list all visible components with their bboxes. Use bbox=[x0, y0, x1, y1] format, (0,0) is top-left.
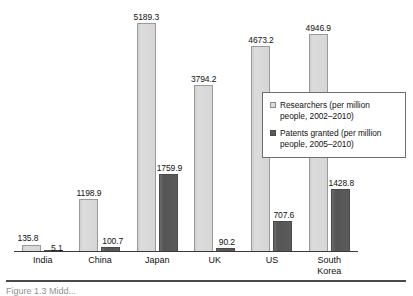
legend-item-researchers[interactable]: Researchers (per million people, 2002–20… bbox=[270, 100, 399, 121]
x-tick-line1: UK bbox=[186, 255, 243, 266]
figure-container: 135.8 5.1 1198.9 100.7 5189.3 bbox=[0, 0, 413, 296]
legend-item-patents[interactable]: Patents granted (per million people, 200… bbox=[270, 128, 399, 149]
bar-patents-us[interactable]: 707.6 bbox=[273, 221, 292, 252]
chart-legend: Researchers (per million people, 2002–20… bbox=[262, 92, 406, 158]
figure-caption-clipped: Figure 1.3 Midd... bbox=[6, 287, 406, 296]
bar-group-japan: 5189.3 1759.9 bbox=[129, 0, 186, 252]
value-label: 1428.8 bbox=[329, 179, 354, 188]
legend-label-researchers: Researchers (per million people, 2002–20… bbox=[280, 100, 399, 121]
value-label: 707.6 bbox=[273, 211, 294, 220]
bar-group-india: 135.8 5.1 bbox=[14, 0, 71, 252]
x-tick-line2: Korea bbox=[301, 266, 358, 277]
bar-group-uk: 3794.2 90.2 bbox=[186, 0, 243, 252]
value-label: 1759.9 bbox=[157, 164, 182, 173]
bar-researchers-japan[interactable]: 5189.3 bbox=[137, 23, 156, 252]
bar-researchers-china[interactable]: 1198.9 bbox=[79, 199, 98, 252]
figure-caption-text: Figure 1.3 Midd... bbox=[6, 287, 406, 296]
bar-group-china: 1198.9 100.7 bbox=[71, 0, 128, 252]
caption-divider-rule bbox=[6, 280, 406, 282]
value-label: 4946.9 bbox=[306, 24, 331, 33]
x-tick-line1: China bbox=[71, 255, 128, 266]
bar-patents-japan[interactable]: 1759.9 bbox=[159, 174, 178, 252]
x-axis-line bbox=[14, 251, 358, 252]
bar-researchers-uk[interactable]: 3794.2 bbox=[194, 85, 213, 252]
x-tick-line1: US bbox=[243, 255, 300, 266]
bar-patents-south-korea[interactable]: 1428.8 bbox=[331, 189, 350, 252]
value-label: 3794.2 bbox=[191, 75, 216, 84]
x-tick-line1: India bbox=[14, 255, 71, 266]
value-label: 5189.3 bbox=[134, 13, 159, 22]
legend-swatch-dark-square-icon bbox=[270, 130, 276, 136]
legend-swatch-light-square-icon bbox=[270, 102, 276, 108]
value-label: 4673.2 bbox=[248, 36, 273, 45]
x-tick-line1: Japan bbox=[129, 255, 186, 266]
value-label: 90.2 bbox=[219, 238, 235, 247]
value-label: 135.8 bbox=[18, 234, 39, 243]
value-label: 1198.9 bbox=[77, 189, 102, 198]
legend-label-patents: Patents granted (per million people, 200… bbox=[280, 128, 399, 149]
value-label: 100.7 bbox=[102, 237, 123, 246]
x-tick-line1: South bbox=[301, 255, 358, 266]
